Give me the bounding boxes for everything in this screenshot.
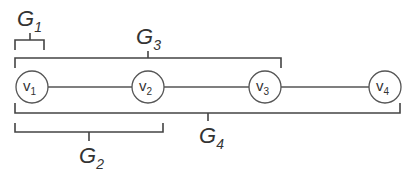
group-label-g2: G2 <box>79 143 104 172</box>
bracket-g3 <box>15 51 281 68</box>
group-hierarchy-diagram: G1 G3 G4 G2 v1 v2 v3 v4 <box>0 0 413 177</box>
group-label-g3: G3 <box>136 24 161 53</box>
node-v4: v4 <box>369 71 401 103</box>
bracket-g2 <box>15 123 163 141</box>
node-v2: v2 <box>132 71 164 103</box>
node-v3: v3 <box>249 71 281 103</box>
group-label-g1: G1 <box>17 6 42 35</box>
bracket-g1 <box>15 33 44 50</box>
bracket-g4 <box>15 103 400 121</box>
node-v1: v1 <box>16 71 48 103</box>
group-label-g4: G4 <box>199 123 224 152</box>
